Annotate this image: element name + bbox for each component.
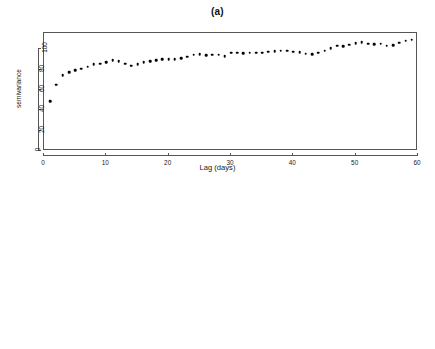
data-point — [342, 45, 345, 48]
data-point — [61, 74, 64, 77]
data-point — [211, 54, 214, 57]
data-point — [174, 58, 177, 61]
data-point — [186, 56, 189, 59]
data-point — [93, 63, 96, 66]
data-point — [286, 50, 289, 53]
y-tick-label: 0 — [34, 148, 41, 152]
data-point — [379, 42, 382, 45]
x-tick — [292, 153, 293, 156]
data-point — [236, 52, 239, 55]
data-point — [155, 59, 158, 62]
data-point — [80, 67, 83, 70]
data-point — [311, 53, 314, 56]
data-point — [298, 51, 301, 54]
data-point — [149, 60, 152, 63]
data-point — [392, 44, 395, 47]
data-point — [217, 54, 220, 57]
semivariogram-figure: (a) 020406080100 0102030405060 Lag (days… — [0, 0, 435, 349]
data-point — [167, 58, 170, 61]
data-point — [205, 54, 208, 57]
data-point — [323, 50, 326, 53]
y-tick-label: 100 — [41, 42, 48, 53]
data-point — [267, 51, 270, 54]
x-tick — [355, 153, 356, 156]
data-point — [142, 61, 145, 64]
data-point — [230, 52, 233, 55]
data-point — [261, 52, 264, 55]
x-tick — [168, 153, 169, 156]
data-point — [280, 50, 283, 53]
data-point — [192, 54, 195, 57]
data-point — [292, 51, 295, 54]
data-point — [136, 63, 139, 66]
data-point — [49, 100, 52, 103]
x-tick — [417, 153, 418, 156]
data-point — [161, 58, 164, 61]
data-point — [273, 50, 276, 53]
data-point — [74, 69, 77, 72]
y-tick-label: 80 — [38, 65, 45, 72]
data-point — [99, 62, 102, 65]
data-point — [329, 47, 332, 50]
x-tick — [230, 153, 231, 156]
data-point — [223, 55, 226, 58]
panel-a-title: (a) — [0, 6, 435, 17]
data-point — [68, 71, 71, 74]
data-point — [367, 42, 370, 45]
data-point — [317, 52, 320, 55]
x-tick — [105, 153, 106, 156]
data-point — [361, 41, 364, 44]
data-point — [398, 41, 401, 44]
x-tick — [43, 153, 44, 156]
data-point — [86, 65, 89, 68]
data-point — [305, 53, 308, 56]
y-tick-label: 20 — [38, 126, 45, 133]
panel-a-y-label: semivariance — [15, 59, 22, 119]
data-point — [118, 60, 121, 63]
data-point — [348, 43, 351, 46]
data-point — [130, 64, 133, 67]
panel-a-plot-area — [43, 32, 417, 150]
y-axis-line — [38, 48, 39, 150]
y-tick-label: 60 — [38, 85, 45, 92]
data-point — [199, 53, 202, 56]
data-point — [404, 39, 407, 42]
panel-b: (b) 020406080 0102030405060 Lag (days) s… — [0, 174, 435, 348]
data-point — [336, 44, 339, 47]
data-point — [410, 38, 413, 41]
data-point — [180, 57, 183, 60]
data-point — [386, 44, 389, 47]
data-point — [248, 52, 251, 55]
data-point — [111, 59, 114, 62]
data-point — [124, 62, 127, 65]
panel-a-points — [44, 33, 416, 149]
data-point — [255, 52, 258, 55]
panel-a-x-label: Lag (days) — [0, 163, 435, 172]
data-point — [354, 42, 357, 45]
y-tick-label: 40 — [38, 105, 45, 112]
data-point — [55, 84, 58, 87]
data-point — [373, 43, 376, 46]
data-point — [105, 61, 108, 64]
panel-a: (a) 020406080100 0102030405060 Lag (days… — [0, 0, 435, 174]
data-point — [242, 52, 245, 55]
